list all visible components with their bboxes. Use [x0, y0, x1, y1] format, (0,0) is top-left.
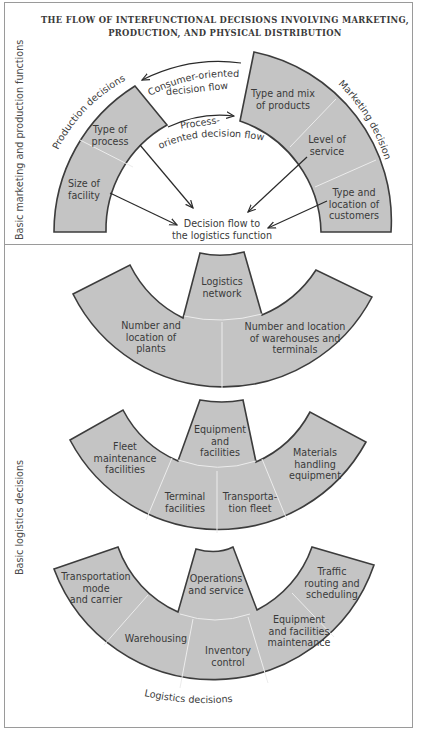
equip-maint-line1: Equipment — [268, 614, 331, 626]
size-of-facility-line2: facility — [68, 190, 100, 202]
traffic-line3: scheduling — [304, 589, 359, 601]
customers-line3: customers — [329, 210, 379, 222]
terminal-line1: Terminal — [165, 491, 206, 503]
target-line1: Decision flow to — [172, 218, 272, 230]
warehousing-line1: Warehousing — [125, 633, 187, 645]
materials-handling-label: Materials handling equipment — [289, 447, 341, 482]
equipment-facilities-label: Equipment and facilities — [194, 424, 246, 459]
customers-line2: location of — [329, 199, 379, 211]
size-of-facility-line1: Size of — [68, 178, 100, 190]
warehouses-line2: of warehouses and — [245, 333, 346, 345]
operations-line2: and service — [188, 585, 243, 597]
arrow-service-to-logistics — [248, 157, 307, 212]
plants-line1: Number and — [121, 320, 181, 332]
production-decisions-shape — [54, 86, 167, 232]
logistics-function-target-label: Decision flow to the logistics function — [172, 218, 272, 241]
traffic-line1: Traffic — [304, 566, 359, 578]
logistics-network-line2: network — [201, 288, 243, 300]
warehouses-line1: Number and location — [245, 321, 346, 333]
type-of-process-line1: Type of — [92, 124, 129, 136]
level-of-service-line2: service — [308, 146, 346, 158]
operations-line1: Operations — [188, 573, 243, 585]
equipment-maintenance-label: Equipment and facilities maintenance — [268, 614, 331, 649]
fleet-line3: facilities — [94, 464, 157, 476]
transport-fleet-line1: Transporta- — [223, 491, 277, 503]
type-location-customers-label: Type and location of customers — [329, 187, 379, 222]
equip-maint-line3: maintenance — [268, 637, 331, 649]
logistics-network-label: Logistics network — [201, 276, 243, 299]
arrow-facility-to-logistics — [110, 193, 177, 225]
side-label-bottom: Basic logistics decisions — [14, 460, 25, 575]
level-of-service-line1: Level of — [308, 134, 346, 146]
arrow-process-to-logistics — [140, 145, 193, 208]
logistics-decisions-label: Logistics decisions — [144, 687, 233, 705]
materials-line2: handling — [289, 459, 341, 471]
equip-maint-line2: and facilities — [268, 626, 331, 638]
type-mix-line2: of products — [251, 100, 315, 112]
operations-service-label: Operations and service — [188, 573, 243, 596]
traffic-routing-label: Traffic routing and scheduling — [304, 566, 359, 601]
fleet-maintenance-label: Fleet maintenance facilities — [94, 441, 157, 476]
warehouses-terminals-label: Number and location of warehouses and te… — [245, 321, 346, 356]
process-flow-label-2: oriented decision flow — [156, 128, 265, 151]
equip-fac-line3: facilities — [194, 447, 246, 459]
terminal-facilities-label: Terminal facilities — [165, 491, 206, 514]
equip-fac-line2: and — [194, 436, 246, 448]
type-of-process-line2: process — [92, 136, 129, 148]
type-mix-line1: Type and mix — [251, 88, 315, 100]
plants-line2: location of — [121, 332, 181, 344]
plants-label: Number and location of plants — [121, 320, 181, 355]
materials-line3: equipment — [289, 470, 341, 482]
target-line2: the logistics function — [172, 230, 272, 242]
customers-line1: Type and — [329, 187, 379, 199]
side-label-top: Basic marketing and production functions — [14, 40, 25, 240]
equip-fac-line1: Equipment — [194, 424, 246, 436]
type-of-process-label: Type of process — [92, 124, 129, 147]
transport-fleet-line2: tion fleet — [223, 503, 277, 515]
diagram-canvas: Production decisions Marketing decisions… — [0, 0, 424, 737]
warehouses-line3: terminals — [245, 344, 346, 356]
logistics-decisions-textpath: Logistics decisions — [144, 687, 233, 705]
size-of-facility-label: Size of facility — [68, 178, 100, 201]
inventory-line2: control — [205, 657, 251, 669]
warehousing-label: Warehousing — [125, 633, 187, 645]
fleet-line1: Fleet — [94, 441, 157, 453]
terminal-line2: facilities — [165, 503, 206, 515]
inventory-line1: Inventory — [205, 645, 251, 657]
inventory-control-label: Inventory control — [205, 645, 251, 668]
transportation-mode-label: Transportation mode and carrier — [61, 571, 130, 606]
fleet-line2: maintenance — [94, 453, 157, 465]
logistics-network-line1: Logistics — [201, 276, 243, 288]
transport-mode-line2: mode — [61, 583, 130, 595]
type-mix-products-label: Type and mix of products — [251, 88, 315, 111]
traffic-line2: routing and — [304, 578, 359, 590]
materials-line1: Materials — [289, 447, 341, 459]
arrow-customers-to-logistics — [268, 201, 327, 228]
transportation-fleet-label: Transporta- tion fleet — [223, 491, 277, 514]
process-flow-textpath: oriented decision flow — [156, 128, 265, 151]
transport-mode-line1: Transportation — [61, 571, 130, 583]
level-of-service-label: Level of service — [308, 134, 346, 157]
transport-mode-line3: and carrier — [61, 594, 130, 606]
plants-line3: plants — [121, 343, 181, 355]
